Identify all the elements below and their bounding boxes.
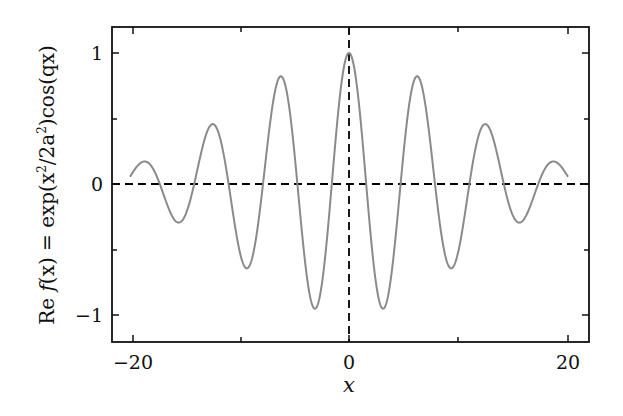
y-axis-label: Re f(x) = exp(x2/2a2)cos(qx) bbox=[35, 45, 59, 325]
ylabel-superscript: 2 bbox=[35, 126, 49, 134]
ylabel-body: (x) = exp(x bbox=[35, 172, 59, 284]
ylabel-superscript: 2 bbox=[35, 165, 49, 173]
chart-svg: −20 0 20 1 0 −1 x Re f(x) = exp(x2/2a2)c… bbox=[0, 0, 623, 416]
y-tick-label: 0 bbox=[91, 173, 103, 195]
x-tick-label: 0 bbox=[343, 351, 355, 373]
x-tick-label: −20 bbox=[113, 351, 153, 373]
ylabel-body: /2a bbox=[35, 134, 59, 165]
ylabel-body: )cos(qx) bbox=[35, 45, 59, 126]
x-ticks-top bbox=[133, 27, 568, 34]
y-tick-label: 1 bbox=[91, 42, 103, 64]
x-tick-label: 20 bbox=[556, 351, 580, 373]
ylabel-re: Re bbox=[35, 298, 59, 325]
y-tick-label: −1 bbox=[75, 304, 103, 326]
x-axis-label: x bbox=[343, 373, 355, 397]
chart-container: −20 0 20 1 0 −1 x Re f(x) = exp(x2/2a2)c… bbox=[0, 0, 623, 416]
y-ticks-right bbox=[582, 53, 589, 315]
x-ticks-bottom bbox=[133, 335, 568, 342]
data-curve bbox=[130, 53, 568, 309]
y-ticks-left bbox=[112, 53, 119, 315]
